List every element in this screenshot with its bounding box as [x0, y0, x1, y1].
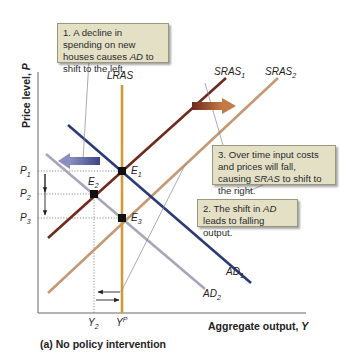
sras-shift-right-arrow: [192, 98, 236, 114]
sras1-label: SRAS1: [214, 66, 245, 79]
y2-tick-label: Y2: [88, 317, 99, 330]
yp-tick-label: YP: [116, 316, 128, 328]
annotation-note-3: 3. Over time input costs and prices will…: [212, 145, 336, 185]
ad-shift-left-arrow: [58, 153, 100, 169]
e2-label: E2: [88, 176, 99, 189]
sras2-label: SRAS2: [265, 66, 296, 79]
p3-tick-label: P3: [20, 212, 31, 225]
p2-tick-label: P2: [20, 188, 31, 201]
output-change-arrows: [96, 292, 120, 300]
y-axis-title: Price level, P: [20, 62, 32, 128]
annotation-note-1: 1. A decline in spending on new houses c…: [57, 23, 169, 63]
e2-point: [90, 190, 98, 198]
x-axis-title: Aggregate output, Y: [208, 320, 308, 332]
figure-caption: (a) No policy intervention: [40, 338, 166, 350]
e1-point: [118, 167, 126, 175]
ad1-label: AD1: [225, 266, 244, 279]
e3-point: [118, 214, 126, 222]
e3-label: E3: [131, 212, 142, 225]
p1-tick-label: P1: [20, 165, 31, 178]
annotation-note-2: 2. The shift in AD leads to falling outp…: [197, 199, 298, 227]
e1-label: E1: [131, 165, 142, 178]
ad2-label: AD2: [202, 288, 221, 301]
